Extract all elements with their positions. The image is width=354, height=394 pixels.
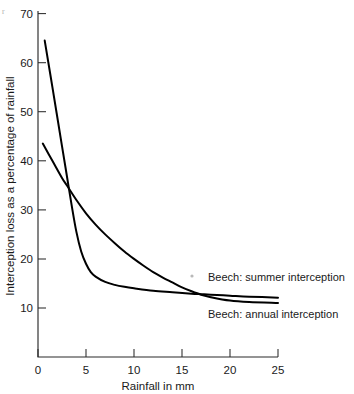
y-axis-title: Interception loss as a percentage of rai… (4, 76, 16, 295)
y-tick-label-50: 50 (20, 106, 33, 118)
series-label-annual: Beech: annual interception (208, 308, 338, 320)
series-line-summer-interception (45, 41, 278, 298)
x-tick-label-25: 25 (272, 364, 285, 376)
x-tick-label-20: 20 (224, 364, 237, 376)
x-tick-label-0: 0 (35, 364, 41, 376)
chart-svg: r 70 60 50 40 30 20 10 (0, 0, 354, 394)
y-tick-label-10: 10 (20, 302, 33, 314)
x-tick-label-15: 15 (176, 364, 189, 376)
y-axis-tick-labels: 70 60 50 40 30 20 10 (20, 8, 33, 314)
axis-lines (38, 11, 278, 357)
x-axis-tick-labels: 0 5 10 15 20 25 (35, 364, 285, 376)
y-axis-ticks (38, 14, 46, 308)
x-axis-ticks (38, 349, 278, 357)
y-tick-label-60: 60 (20, 57, 33, 69)
y-tick-label-20: 20 (20, 253, 33, 265)
y-tick-label-70: 70 (20, 8, 33, 20)
corner-artifact-mark: r (2, 7, 5, 16)
chart-figure: r 70 60 50 40 30 20 10 (0, 0, 354, 394)
x-axis-title: Rainfall in mm (122, 380, 195, 392)
speck-artifact (190, 274, 193, 277)
series-label-summer: Beech: summer interception (208, 271, 345, 283)
x-tick-label-10: 10 (128, 364, 141, 376)
x-tick-label-5: 5 (83, 364, 89, 376)
y-tick-label-40: 40 (20, 155, 33, 167)
y-tick-label-30: 30 (20, 204, 33, 216)
